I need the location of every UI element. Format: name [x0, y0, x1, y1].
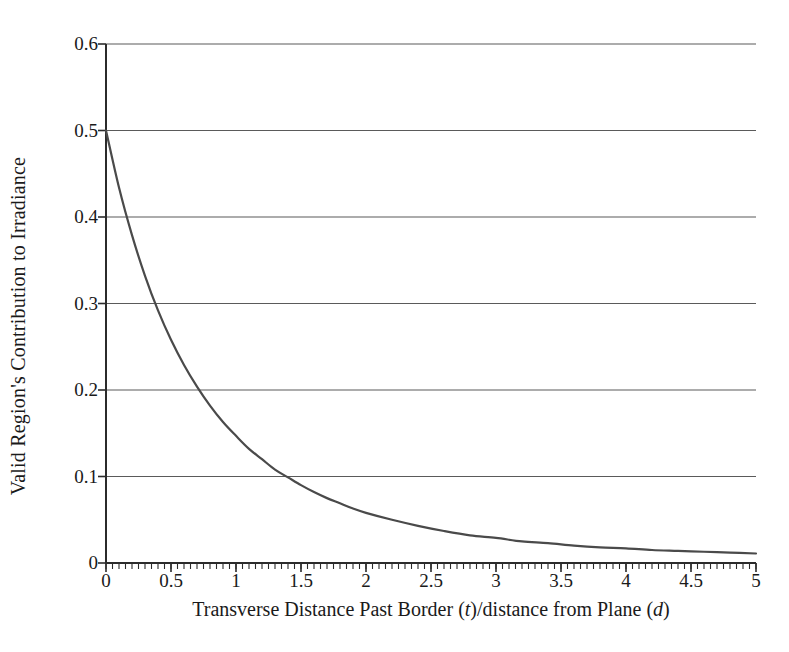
x-tick-label: 2 — [336, 570, 396, 591]
x-axis-title-between: )/distance from Plane ( — [470, 598, 653, 620]
x-tick-label-layer: 00.511.522.533.544.55 — [0, 570, 789, 600]
x-tick-label: 4.5 — [661, 570, 721, 591]
y-tick-label: 0.6 — [52, 34, 98, 53]
x-tick-label: 0.5 — [141, 570, 201, 591]
y-tick-label-layer: 00.10.20.30.40.50.6 — [40, 0, 98, 652]
y-tick-label: 0.1 — [52, 467, 98, 486]
chart-figure: 00.10.20.30.40.50.6 00.511.522.533.544.5… — [0, 0, 789, 652]
x-axis-title-after: ) — [663, 598, 670, 620]
x-tick-label: 1 — [206, 570, 266, 591]
x-tick-label: 0 — [76, 570, 136, 591]
x-tick-label: 3.5 — [531, 570, 591, 591]
x-tick-label: 1.5 — [271, 570, 331, 591]
y-tick-label: 0.2 — [52, 380, 98, 399]
x-tick-label: 2.5 — [401, 570, 461, 591]
x-tick-label: 4 — [596, 570, 656, 591]
plot-area — [0, 0, 789, 652]
data-series-line — [106, 131, 756, 554]
x-axis-title-before: Transverse Distance Past Border ( — [192, 598, 465, 620]
y-axis-title: Valid Region's Contribution to Irradianc… — [0, 0, 40, 652]
y-tick-label: 0.3 — [52, 294, 98, 313]
gridlines-group — [106, 44, 756, 477]
y-major-ticks-group — [98, 44, 106, 563]
x-tick-label: 5 — [726, 570, 786, 591]
x-axis-title: Transverse Distance Past Border (t)/dist… — [106, 598, 756, 621]
y-tick-label: 0.5 — [52, 121, 98, 140]
y-tick-label: 0.4 — [52, 207, 98, 226]
x-tick-label: 3 — [466, 570, 526, 591]
y-axis-title-text: Valid Region's Contribution to Irradianc… — [7, 157, 33, 495]
x-axis-title-var-d: d — [653, 598, 663, 620]
